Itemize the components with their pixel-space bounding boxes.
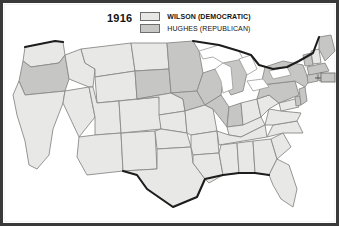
us-map-container (7, 29, 338, 225)
lake-superior (199, 45, 243, 63)
state-WY (95, 71, 137, 103)
state-NM (121, 131, 157, 171)
legend-label-hughes: HUGHES (REPUBLICAN) (167, 25, 250, 33)
legend-item-wilson: WILSON (DEMOCRATIC) (140, 11, 250, 22)
state-MS (219, 143, 239, 175)
legend-swatch-hughes (140, 24, 160, 33)
legend-label-wilson: WILSON (DEMOCRATIC) (167, 13, 250, 21)
state-MO (185, 105, 217, 135)
us-states-map (7, 29, 338, 225)
state-MN (167, 41, 203, 93)
legend-entry-list: WILSON (DEMOCRATIC) HUGHES (REPUBLICAN) (140, 11, 250, 35)
state-ME (319, 35, 335, 61)
map-legend: 1916 WILSON (DEMOCRATIC) HUGHES (REPUBLI… (107, 11, 251, 35)
legend-swatch-wilson (140, 12, 160, 21)
state-FL (269, 159, 297, 207)
state-CO (119, 97, 161, 133)
state-AR (191, 131, 219, 155)
legend-item-hughes: HUGHES (REPUBLICAN) (140, 23, 250, 34)
state-CA (13, 81, 65, 169)
state-IN (227, 103, 243, 127)
state-ND (131, 43, 169, 71)
small-state-inset-box (321, 73, 335, 82)
election-year-label: 1916 (107, 13, 132, 24)
election-map-figure: 1916 WILSON (DEMOCRATIC) HUGHES (REPUBLI… (0, 0, 339, 226)
state-AL (237, 141, 255, 173)
state-AZ (77, 133, 123, 175)
state-NH (311, 49, 321, 64)
